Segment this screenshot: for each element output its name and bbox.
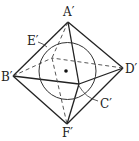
edge-AB bbox=[13, 22, 68, 76]
edge-AD bbox=[68, 22, 123, 68]
center-point bbox=[64, 69, 68, 73]
label-C: C′ bbox=[100, 97, 112, 111]
edge-BF bbox=[13, 76, 67, 124]
edge-AC bbox=[68, 22, 79, 84]
edge-BC bbox=[13, 76, 79, 84]
edge-AE-hidden bbox=[52, 22, 68, 58]
label-D: D′ bbox=[125, 62, 138, 76]
edge-BE-hidden bbox=[13, 58, 52, 76]
edge-CD bbox=[79, 68, 123, 84]
edge-EF-hidden bbox=[52, 58, 67, 124]
leader-C bbox=[79, 86, 98, 101]
label-A: A′ bbox=[62, 5, 75, 19]
label-E: E′ bbox=[27, 34, 39, 48]
label-B: B′ bbox=[1, 70, 13, 84]
octahedron-diagram: A′ B′ D′ F′ E′ C′ bbox=[0, 0, 139, 141]
label-F: F′ bbox=[62, 126, 73, 140]
